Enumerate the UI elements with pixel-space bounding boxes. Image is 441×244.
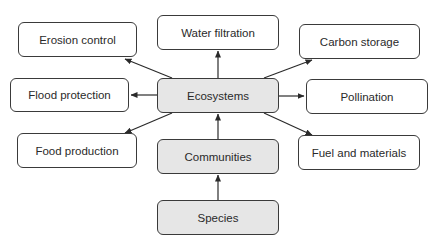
node-label: Species (198, 212, 239, 224)
node-label: Carbon storage (320, 36, 399, 48)
node-label: Food production (35, 145, 118, 157)
arrow-ecosystems-fuel (264, 113, 312, 135)
node-label: Water filtration (181, 27, 255, 39)
node-species: Species (157, 200, 279, 235)
arrow-ecosystems-carbon (264, 60, 312, 78)
node-label: Communities (184, 151, 251, 163)
node-erosion-control: Erosion control (18, 22, 137, 57)
node-food-production: Food production (17, 133, 137, 168)
arrow-ecosystems-erosion (125, 59, 172, 78)
node-water-filtration: Water filtration (157, 15, 279, 50)
node-ecosystems: Ecosystems (157, 78, 279, 113)
arrow-ecosystems-food (125, 113, 172, 133)
node-carbon-storage: Carbon storage (299, 24, 420, 59)
node-flood-protection: Flood protection (10, 78, 129, 112)
node-label: Flood protection (28, 89, 110, 101)
node-fuel-and-materials: Fuel and materials (298, 135, 420, 170)
node-pollination: Pollination (306, 79, 428, 114)
node-communities: Communities (157, 139, 279, 174)
node-label: Fuel and materials (312, 147, 407, 159)
node-label: Erosion control (39, 34, 116, 46)
node-label: Pollination (340, 91, 393, 103)
node-label: Ecosystems (187, 90, 249, 102)
